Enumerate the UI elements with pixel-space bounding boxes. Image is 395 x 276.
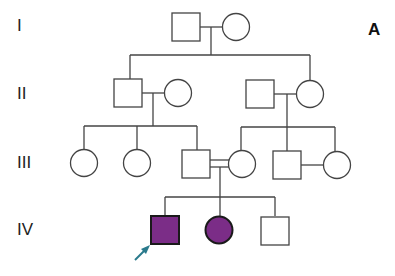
individual-iv-2-affected: [206, 217, 233, 244]
individual-iii-3: [182, 150, 210, 178]
individual-ii-2: [165, 80, 192, 107]
individual-iv-3: [261, 217, 289, 245]
individual-iv-1-affected-proband: [151, 216, 179, 244]
pedigree-lines: [84, 27, 335, 216]
individual-ii-3: [246, 80, 274, 108]
individual-iii-1: [71, 150, 98, 177]
individual-ii-1: [114, 79, 142, 107]
individual-iii-4: [229, 151, 256, 178]
individual-i-2: [223, 14, 250, 41]
pedigree-chart: [0, 0, 395, 276]
proband-arrow-icon: [135, 245, 150, 260]
individual-iii-2: [124, 150, 151, 177]
individual-iii-6: [324, 152, 351, 179]
individual-ii-4: [297, 81, 324, 108]
individual-iii-5: [273, 151, 301, 179]
individual-i-1: [172, 13, 200, 41]
